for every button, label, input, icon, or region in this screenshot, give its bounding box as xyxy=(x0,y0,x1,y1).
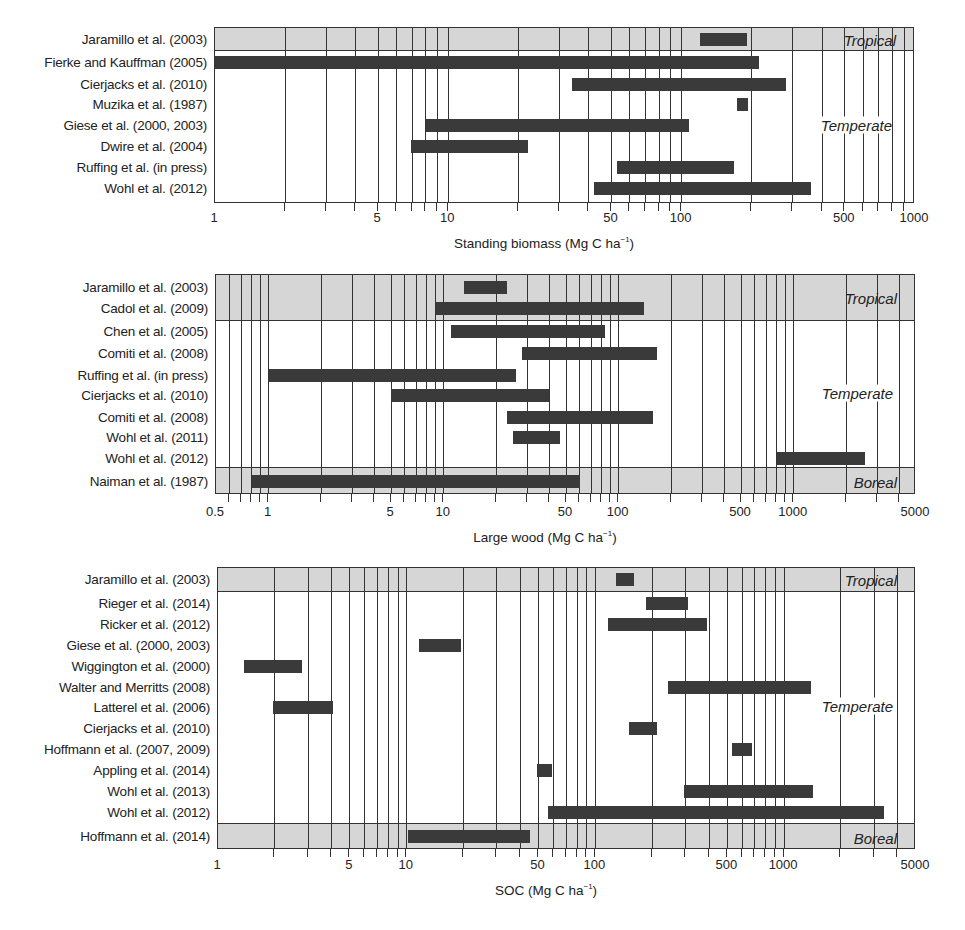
tick-mark xyxy=(609,494,610,502)
tick-mark xyxy=(348,849,349,857)
gridline xyxy=(520,568,521,848)
tick-mark xyxy=(753,849,754,857)
gridline xyxy=(391,275,392,493)
tick-mark xyxy=(526,494,527,502)
gridline xyxy=(671,275,672,493)
tick-mark xyxy=(387,849,388,857)
tick-mark xyxy=(877,203,878,211)
tick-mark xyxy=(519,849,520,857)
x-axis-title-superscript: −1 xyxy=(603,529,612,538)
region-label-tropical: Tropical xyxy=(844,31,896,48)
x-tick-label: 5000 xyxy=(901,504,930,519)
row-label: Chen et al. (2005) xyxy=(104,324,208,339)
row-label: Appling et al. (2014) xyxy=(93,763,210,778)
tick-mark xyxy=(585,849,586,857)
gridline xyxy=(878,28,879,202)
tick-mark xyxy=(791,203,792,211)
tick-mark xyxy=(784,494,785,502)
plot-area-1 xyxy=(214,27,914,203)
row-label: Comiti et al. (2008) xyxy=(98,346,208,361)
row-label: Hoffmann et al. (2014) xyxy=(80,829,210,844)
tick-mark xyxy=(765,494,766,502)
gridline xyxy=(670,28,671,202)
x-tick-label: 50 xyxy=(530,857,544,872)
tick-mark xyxy=(701,494,702,502)
row-label: Wohl et al. (2011) xyxy=(106,430,208,445)
tick-mark xyxy=(792,494,793,502)
row-label: Cadol et al. (2009) xyxy=(101,301,208,316)
gridline xyxy=(645,28,646,202)
tick-mark xyxy=(307,849,308,857)
row-label: Wohl et al. (2012) xyxy=(104,181,207,196)
tick-mark xyxy=(708,849,709,857)
tropical-band xyxy=(215,28,913,51)
tick-mark xyxy=(330,849,331,857)
tick-mark xyxy=(390,494,391,502)
row-label: Jaramillo et al. (2003) xyxy=(82,32,207,47)
range-bar xyxy=(411,140,529,153)
tick-mark xyxy=(594,849,595,857)
plot-area-3 xyxy=(217,567,915,849)
x-axis-title: Large wood (Mg C ha−1) xyxy=(473,529,616,545)
range-bar xyxy=(732,743,752,756)
tick-mark xyxy=(753,494,754,502)
row-label: Dwire et al. (2004) xyxy=(101,139,208,154)
range-bar xyxy=(608,618,707,631)
tick-mark xyxy=(565,849,566,857)
range-bar xyxy=(426,119,690,132)
gridline xyxy=(629,28,630,202)
x-axis-title-superscript: −1 xyxy=(583,882,592,891)
x-tick-label: 500 xyxy=(833,210,855,225)
tick-mark xyxy=(436,203,437,211)
tick-mark xyxy=(764,849,765,857)
tick-mark xyxy=(898,494,899,502)
gridline xyxy=(425,28,426,202)
row-label: Cierjacks et al. (2010) xyxy=(81,388,208,403)
tick-mark xyxy=(558,203,559,211)
gridline xyxy=(377,568,378,848)
x-axis-title-text: SOC (Mg C ha xyxy=(495,883,584,898)
tick-mark xyxy=(405,849,406,857)
tick-mark xyxy=(495,849,496,857)
x-tick-label: 100 xyxy=(584,857,606,872)
tick-mark xyxy=(284,203,285,211)
x-tick-label: 5 xyxy=(386,504,393,519)
tick-mark xyxy=(442,494,443,502)
x-tick-label: 10 xyxy=(440,210,454,225)
x-tick-label: 10 xyxy=(398,857,412,872)
row-label: Rieger et al. (2014) xyxy=(98,596,210,611)
range-bar xyxy=(737,98,748,111)
range-bar xyxy=(629,722,657,735)
tick-mark xyxy=(670,494,671,502)
tick-mark xyxy=(775,494,776,502)
row-label: Fierke and Kauffman (2005) xyxy=(44,55,207,70)
range-bar xyxy=(244,660,303,673)
tick-mark xyxy=(273,849,274,857)
row-label: Wiggington et al. (2000) xyxy=(71,659,210,674)
x-tick-label: 1000 xyxy=(900,210,929,225)
tick-mark xyxy=(376,849,377,857)
gridline xyxy=(904,28,905,202)
gridline xyxy=(496,568,497,848)
x-axis-title-end: ) xyxy=(612,530,617,545)
gridline xyxy=(863,28,864,202)
tick-mark xyxy=(425,494,426,502)
gridline xyxy=(416,275,417,493)
range-bar xyxy=(646,597,688,610)
tick-mark xyxy=(723,494,724,502)
x-tick-label: 5 xyxy=(345,857,352,872)
row-label: Giese et al. (2000, 2003) xyxy=(63,118,207,133)
gridline xyxy=(724,275,725,493)
x-axis-title-end: ) xyxy=(630,236,635,251)
gridline xyxy=(822,28,823,202)
row-label: Cierjacks et al. (2010) xyxy=(83,721,210,736)
gridline xyxy=(448,28,449,202)
gridline xyxy=(268,275,269,493)
gridline xyxy=(378,28,379,202)
row-label: Jaramillo et al. (2003) xyxy=(83,280,208,295)
x-axis-title: SOC (Mg C ha−1) xyxy=(495,882,597,898)
range-bar xyxy=(436,302,645,315)
gridline xyxy=(702,275,703,493)
gridline xyxy=(611,28,612,202)
region-label-tropical: Tropical xyxy=(845,290,897,307)
